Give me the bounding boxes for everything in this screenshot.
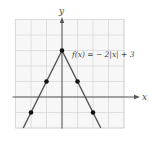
y-axis-label: y: [58, 6, 65, 16]
function-label: f(x) = − 2|x| + 3: [71, 50, 135, 59]
graph: y x f(x) = − 2|x| + 3: [0, 0, 150, 141]
data-point: [91, 110, 96, 115]
data-point: [29, 110, 34, 115]
data-point: [75, 79, 80, 84]
x-axis-label: x: [142, 92, 147, 102]
data-point: [44, 79, 49, 84]
data-point: [60, 48, 65, 53]
